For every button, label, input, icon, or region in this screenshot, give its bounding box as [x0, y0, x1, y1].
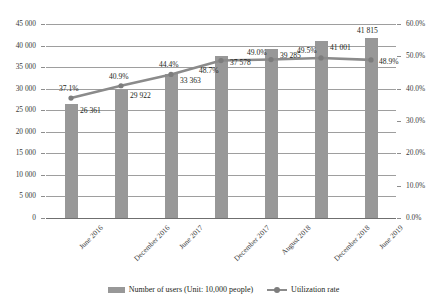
x-axis-baseline: [46, 218, 396, 219]
y-axis-right-tick: [397, 89, 401, 90]
plot-area: [46, 24, 396, 218]
y-axis-left-tick-label: 30 000: [2, 85, 36, 92]
x-axis-tick-label: August 2018: [280, 224, 312, 256]
legend-line-swatch-icon: [267, 286, 287, 294]
x-axis-tick-label: June 2016: [78, 224, 105, 251]
y-axis-right-tick-label: 50.0%: [406, 52, 425, 59]
y-axis-left-tick-label: 5 000: [2, 192, 36, 199]
line-marker[interactable]: [68, 95, 73, 100]
x-axis-tick-label: December 2017: [233, 224, 271, 262]
y-axis-left-tick-label: 40 000: [2, 42, 36, 49]
y-axis-left-tick: [41, 175, 45, 176]
y-axis-left-tick: [41, 46, 45, 47]
bar-value-label: 33 363: [180, 77, 201, 85]
legend-item-users: Number of users (Unit: 10,000 people): [108, 286, 253, 294]
legend-label-utilization: Utilization rate: [291, 286, 339, 294]
line-value-label: 44.4%: [159, 61, 179, 69]
legend-label-users: Number of users (Unit: 10,000 people): [129, 286, 253, 294]
line-value-label: 48.9%: [379, 58, 399, 66]
bar-value-label: 41 815: [357, 27, 378, 35]
y-axis-right-tick: [397, 24, 401, 25]
y-axis-left-tick-label: 35 000: [2, 63, 36, 70]
bar-value-label: 41 001: [330, 44, 351, 52]
chart-legend: Number of users (Unit: 10,000 people) Ut…: [0, 286, 447, 294]
y-axis-left-tick-label: 10 000: [2, 171, 36, 178]
bar-value-label: 26 361: [80, 107, 101, 115]
x-axis-tick-label: June 2019: [378, 224, 405, 251]
y-axis-left-tick-label: 20 000: [2, 128, 36, 135]
line-marker[interactable]: [168, 72, 173, 77]
y-axis-right-tick: [397, 153, 401, 154]
y-axis-right-tick-label: 0.0%: [406, 214, 421, 221]
y-axis-left-tick: [41, 196, 45, 197]
line-series: [46, 24, 396, 218]
y-axis-left-tick: [41, 67, 45, 68]
line-marker[interactable]: [118, 83, 123, 88]
legend-item-utilization: Utilization rate: [267, 286, 339, 294]
y-axis-right-tick: [397, 218, 401, 219]
x-axis-tick-label: December 2016: [133, 224, 171, 262]
bar-value-label: 37 578: [230, 59, 251, 67]
y-axis-right-tick: [397, 121, 401, 122]
line-marker[interactable]: [268, 57, 273, 62]
x-axis-tick-label: December 2018: [333, 224, 371, 262]
y-axis-left-tick: [41, 89, 45, 90]
line-value-label: 49.0%: [247, 49, 267, 57]
line-marker[interactable]: [218, 58, 223, 63]
y-axis-right-tick: [397, 186, 401, 187]
y-axis-left-tick: [41, 218, 45, 219]
y-axis-right-tick-label: 40.0%: [406, 85, 425, 92]
bar-value-label: 29 922: [130, 92, 151, 100]
y-axis-left-tick-label: 15 000: [2, 149, 36, 156]
line-value-label: 48.7%: [199, 67, 219, 75]
line-value-label: 49.5%: [297, 47, 317, 55]
y-axis-right-tick-label: 10.0%: [406, 182, 425, 189]
legend-bar-swatch-icon: [108, 287, 125, 293]
y-axis-left-tick: [41, 24, 45, 25]
y-axis-right-tick-label: 60.0%: [406, 20, 425, 27]
y-axis-left-tick: [41, 110, 45, 111]
y-axis-left-tick: [41, 132, 45, 133]
y-axis-left-tick-label: 0: [2, 214, 36, 221]
y-axis-right-tick-label: 20.0%: [406, 149, 425, 156]
x-axis-tick-label: June 2017: [178, 224, 205, 251]
line-marker[interactable]: [318, 55, 323, 60]
y-axis-left-tick-label: 25 000: [2, 106, 36, 113]
y-axis-right-tick-label: 30.0%: [406, 117, 425, 124]
chart-container: 05 00010 00015 00020 00025 00030 00035 0…: [0, 0, 447, 306]
line-value-label: 37.1%: [59, 85, 79, 93]
line-value-label: 40.9%: [109, 73, 129, 81]
line-marker[interactable]: [368, 57, 373, 62]
y-axis-left-tick-label: 45 000: [2, 20, 36, 27]
y-axis-left-tick: [41, 153, 45, 154]
